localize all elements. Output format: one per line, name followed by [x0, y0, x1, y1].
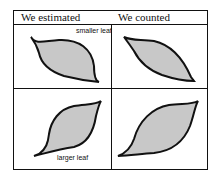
comparison-table: We estimated We counted smaller leaf lar… [13, 10, 208, 170]
larger-leaf-label: larger leaf [57, 154, 88, 161]
estimated-smaller-leaf [31, 37, 99, 82]
smaller-leaf-label: smaller leaf [76, 27, 112, 34]
estimated-larger-leaf [34, 101, 101, 156]
counted-larger-leaf [118, 101, 198, 156]
counted-smaller-leaf [124, 37, 194, 81]
leaf-drawings [14, 11, 209, 171]
